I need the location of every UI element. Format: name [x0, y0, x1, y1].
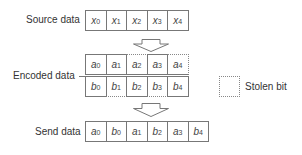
encoded-cell-a0: a0: [85, 54, 107, 75]
encoded-row-a: a0 a1 a2 a3 a4: [85, 54, 189, 75]
send-cell-b2: b2: [147, 121, 169, 142]
encoded-data-grid: a0 a1 a2 a3 a4 b0 b1 b2 b3 b4: [85, 54, 189, 97]
source-cell-x3: x3: [147, 10, 169, 31]
encoded-data-label: Encoded data: [13, 70, 75, 81]
source-cell-x2: x2: [126, 10, 148, 31]
send-cell-b0: b0: [106, 121, 128, 142]
encoded-cell-a2-stolen: a2: [126, 54, 148, 75]
down-arrow-icon: [132, 39, 170, 52]
send-cell-a3: a3: [167, 121, 189, 142]
send-data-label: Send data: [35, 126, 81, 137]
source-cell-x4: x4: [167, 10, 189, 31]
send-cell-a1: a1: [126, 121, 148, 142]
encoded-cell-a3: a3: [147, 54, 169, 75]
encoded-row-b: b0 b1 b2 b3 b4: [85, 76, 189, 97]
send-data-row: a0 b0 a1 b2 a3 b4: [85, 121, 209, 142]
source-data-label: Source data: [26, 14, 80, 25]
encoded-cell-a1: a1: [106, 54, 128, 75]
encoded-cell-b3-stolen: b3: [147, 76, 169, 97]
encoded-cell-b4: b4: [167, 76, 189, 97]
send-cell-a0: a0: [85, 121, 107, 142]
source-cell-x0: x0: [85, 10, 107, 31]
encoded-cell-a4-stolen: a4: [167, 54, 189, 75]
stolen-bit-legend-swatch: [219, 76, 240, 97]
send-cell-b4: b4: [188, 121, 210, 142]
source-cell-x1: x1: [106, 10, 128, 31]
source-data-row: x0 x1 x2 x3 x4: [85, 10, 189, 31]
encoded-cell-b0: b0: [85, 76, 107, 97]
encoded-cell-b1-stolen: b1: [106, 76, 128, 97]
stolen-bit-legend-label: Stolen bit: [245, 81, 287, 92]
encoded-cell-b2: b2: [126, 76, 148, 97]
down-arrow-icon: [132, 103, 170, 117]
